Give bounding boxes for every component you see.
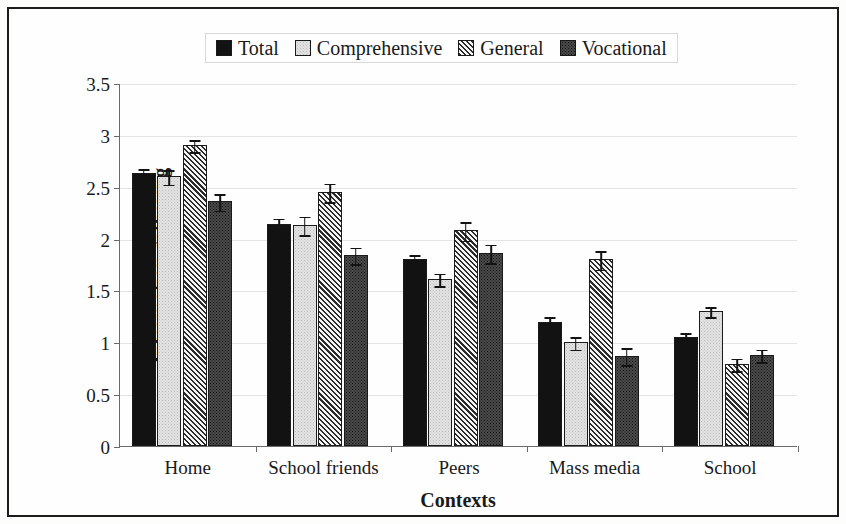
y-axis-tick-label: 0 (101, 438, 111, 457)
legend-label-general: General (480, 38, 543, 58)
error-bar (439, 274, 441, 286)
legend-item-total: Total (216, 38, 279, 58)
bar (293, 225, 317, 446)
bar (157, 176, 181, 446)
legend-label-vocational: Vocational (582, 38, 667, 58)
bar-group: School (662, 84, 798, 446)
error-bar-cap (486, 245, 497, 247)
legend-swatch-comprehensive-icon (295, 40, 311, 56)
bar (479, 253, 503, 446)
error-bar (575, 337, 577, 349)
error-bar-cap (274, 231, 285, 233)
error-bar-cap (350, 248, 361, 250)
plot-area: 00.511.522.533.5 HomeSchool friendsPeers… (119, 84, 797, 447)
legend-item-vocational: Vocational (560, 38, 667, 58)
x-axis-title: Contexts (119, 489, 797, 512)
error-bar-cap (460, 222, 471, 224)
bar (674, 337, 698, 446)
x-axis-tick (391, 446, 392, 452)
legend-swatch-vocational-icon (560, 40, 576, 56)
bar (589, 259, 613, 446)
error-bar-cap (621, 365, 632, 367)
x-axis-tick (527, 446, 528, 452)
legend-swatch-general-icon (458, 40, 474, 56)
error-bar (168, 170, 170, 185)
error-bar-cap (570, 350, 581, 352)
error-bar (626, 348, 628, 365)
bar (183, 145, 207, 446)
y-axis-tick (114, 447, 120, 448)
x-axis-category-label: Peers (438, 458, 479, 477)
x-axis-tick (662, 446, 663, 452)
bar-groups: HomeSchool friendsPeersMass mediaSchool (120, 84, 797, 446)
error-bar-cap (138, 169, 149, 171)
bar (403, 259, 427, 446)
y-axis-tick-label: 0.5 (86, 386, 110, 405)
error-bar-cap (706, 307, 717, 309)
error-bar (355, 248, 357, 265)
error-bar-cap (350, 264, 361, 266)
bar (318, 192, 342, 446)
bar-group: Home (120, 84, 256, 446)
error-bar-cap (680, 333, 691, 335)
legend-item-general: General (458, 38, 543, 58)
bar (750, 355, 774, 446)
error-bar-cap (164, 170, 175, 172)
error-bar-cap (189, 140, 200, 142)
error-bar-cap (325, 202, 336, 204)
error-bar-cap (299, 235, 310, 237)
y-axis-tick-label: 1 (101, 334, 111, 353)
y-axis-tick-label: 2 (101, 230, 111, 249)
error-bar-cap (706, 317, 717, 319)
bar (564, 342, 588, 446)
figure-frame: Total Comprehensive General Vocational I… (7, 7, 839, 517)
error-bar (465, 222, 467, 241)
error-bar-cap (215, 211, 226, 213)
error-bar-cap (731, 371, 742, 373)
bar-group: School friends (256, 84, 392, 446)
error-bar (304, 217, 306, 236)
chart-legend: Total Comprehensive General Vocational (205, 33, 678, 63)
error-bar-cap (138, 179, 149, 181)
error-bar (329, 184, 331, 203)
error-bar-cap (409, 255, 420, 257)
legend-item-comprehensive: Comprehensive (295, 38, 443, 58)
error-bar-cap (757, 350, 768, 352)
bar (615, 356, 639, 446)
bar (344, 255, 368, 446)
x-axis-category-label: Mass media (549, 458, 640, 477)
x-axis-category-label: School friends (268, 458, 378, 477)
legend-label-total: Total (238, 38, 279, 58)
error-bar (278, 219, 280, 231)
x-axis-tick (256, 446, 257, 452)
y-axis-tick-label: 3.5 (86, 75, 110, 94)
bar (538, 322, 562, 446)
error-bar-cap (409, 266, 420, 268)
error-bar-cap (596, 270, 607, 272)
bar (699, 311, 723, 446)
error-bar-cap (164, 185, 175, 187)
error-bar (601, 251, 603, 270)
error-bar-cap (731, 359, 742, 361)
error-bar (736, 359, 738, 371)
bar-group: Peers (391, 84, 527, 446)
x-axis-category-label: School (704, 458, 757, 477)
error-bar-cap (435, 286, 446, 288)
error-bar-cap (299, 217, 310, 219)
bar (132, 173, 156, 446)
y-axis-tick-label: 2.5 (86, 178, 110, 197)
legend-swatch-total-icon (216, 40, 232, 56)
error-bar-cap (545, 328, 556, 330)
bar (454, 230, 478, 446)
error-bar-cap (189, 152, 200, 154)
legend-label-comprehensive: Comprehensive (317, 38, 443, 58)
error-bar-cap (680, 343, 691, 345)
error-bar-cap (486, 263, 497, 265)
error-bar-cap (435, 274, 446, 276)
bar (267, 224, 291, 446)
y-axis-tick-label: 1.5 (86, 282, 110, 301)
bar (208, 201, 232, 446)
error-bar-cap (460, 241, 471, 243)
error-bar-cap (596, 251, 607, 253)
bar-group: Mass media (527, 84, 663, 446)
